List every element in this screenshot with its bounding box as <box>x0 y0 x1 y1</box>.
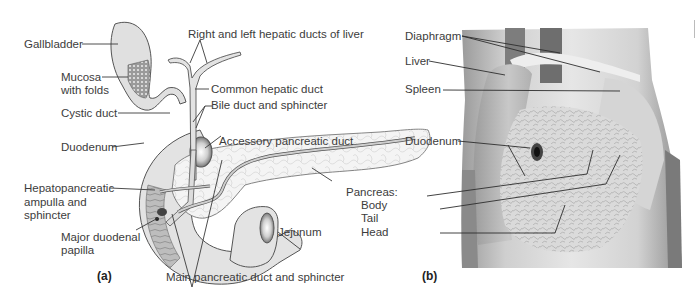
label-duodenum-a: Duodenum <box>61 141 117 154</box>
page-edge-mark <box>694 20 695 38</box>
label-liver: Liver <box>405 55 430 68</box>
label-duodenum-b: Duodenum <box>405 135 461 148</box>
label-papilla-line1: Major duodenal <box>61 231 140 244</box>
label-diaphragm: Diaphragm <box>405 30 461 43</box>
label-pancreas-head: Head <box>361 226 389 239</box>
label-mucosa-line2: with folds <box>61 84 109 97</box>
label-papilla-line2: papilla <box>61 244 94 257</box>
label-accessory-duct: Accessory pancreatic duct <box>219 135 353 148</box>
label-jejunum: Jejunum <box>278 226 321 239</box>
label-hepatopancreatic-line2: ampulla and <box>24 196 87 209</box>
label-common-hepatic-duct: Common hepatic duct <box>211 83 323 96</box>
anatomy-figure: Gallbladder Mucosa with folds Cystic duc… <box>0 0 698 302</box>
label-mucosa-line1: Mucosa <box>61 71 101 84</box>
label-bile-duct: Bile duct and sphincter <box>211 99 327 112</box>
label-hepatopancreatic-line1: Hepatopancreatic <box>24 182 114 195</box>
label-pancreas-tail: Tail <box>361 212 378 225</box>
label-pancreas: Pancreas: <box>346 186 398 199</box>
panel-b-tag: (b) <box>422 269 437 283</box>
panel-a-tag: (a) <box>97 269 112 283</box>
label-main-pancreatic-duct: Main pancreatic duct and sphincter <box>166 271 344 284</box>
label-pancreas-body: Body <box>361 199 387 212</box>
label-cystic-duct: Cystic duct <box>61 107 117 120</box>
label-gallbladder: Gallbladder <box>24 38 83 51</box>
label-spleen: Spleen <box>405 83 441 96</box>
label-hepatopancreatic-line3: sphincter <box>24 209 71 222</box>
label-hepatic-ducts: Right and left hepatic ducts of liver <box>188 28 364 41</box>
